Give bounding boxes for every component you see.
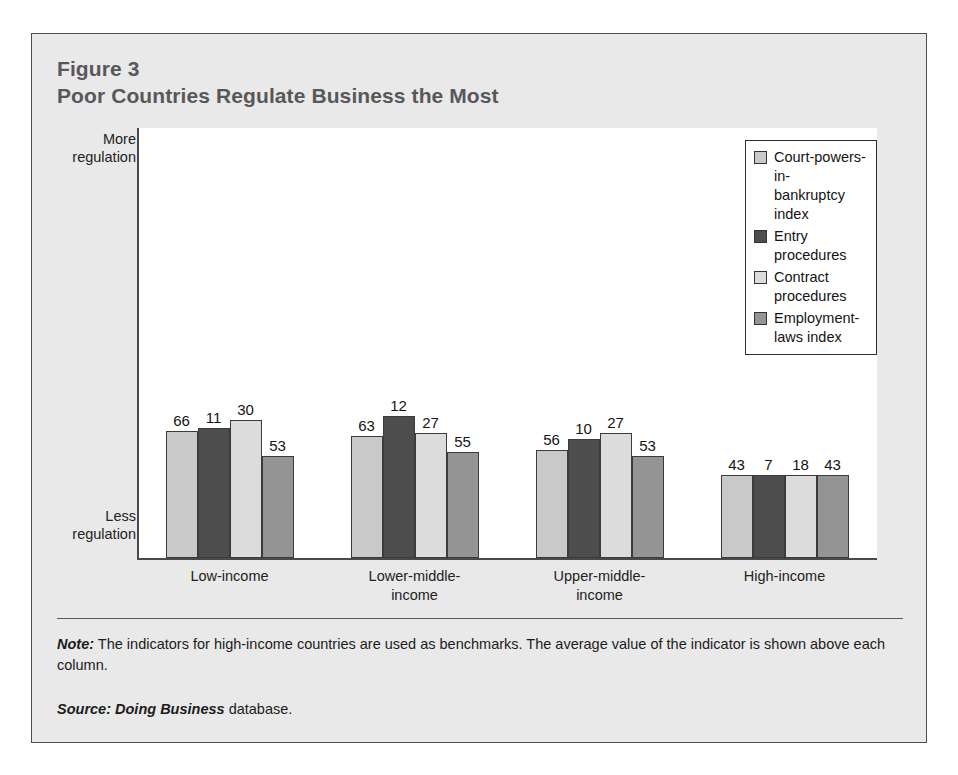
bar	[817, 475, 849, 558]
bar	[721, 475, 753, 558]
legend-label: Entry procedures	[774, 227, 866, 265]
bar-value-label: 12	[390, 397, 407, 414]
bar	[568, 439, 600, 558]
bar	[262, 456, 294, 558]
x-axis-category-labels: Low-incomeLower-middle-incomeUpper-middl…	[137, 567, 877, 605]
figure-screenshot: Figure 3 Poor Countries Regulate Busines…	[0, 0, 958, 775]
legend-item: Contract procedures	[754, 268, 866, 306]
bar-slot: 12	[383, 128, 415, 558]
bar-value-label: 63	[358, 417, 375, 434]
bar	[230, 420, 262, 558]
bar-slot: 63	[351, 128, 383, 558]
legend-item: Court-powers-in-bankruptcy index	[754, 148, 866, 224]
legend-swatch-icon	[754, 312, 767, 325]
bar	[166, 431, 198, 558]
category-label-line2: income	[322, 586, 507, 605]
bar-value-label: 56	[543, 431, 560, 448]
legend-swatch-icon	[754, 271, 767, 284]
bar-slot: 30	[230, 128, 262, 558]
y-axis-top-label: More regulation	[36, 130, 136, 166]
legend-label: Employment-laws index	[774, 309, 866, 347]
legend-label-line1: Court-powers-in-	[774, 148, 866, 186]
figure-panel: Figure 3 Poor Countries Regulate Busines…	[31, 33, 927, 743]
category-label-line1: High-income	[692, 567, 877, 586]
x-axis-category-label: High-income	[692, 567, 877, 605]
page-title: Poor Countries Regulate Business the Mos…	[57, 82, 877, 109]
bar	[600, 433, 632, 558]
bar-value-label: 43	[728, 456, 745, 473]
title-block: Figure 3 Poor Countries Regulate Busines…	[57, 56, 877, 109]
x-axis-category-label: Low-income	[137, 567, 322, 605]
bar-value-label: 30	[237, 401, 254, 418]
bar-slot: 27	[600, 128, 632, 558]
y-axis-top-label-line1: More	[36, 130, 136, 148]
bar-value-label: 27	[422, 414, 439, 431]
bar-group: 66113053	[137, 128, 322, 558]
bar	[447, 452, 479, 558]
legend-swatch-icon	[754, 151, 767, 164]
bar-value-label: 27	[607, 414, 624, 431]
y-axis-top-label-line2: regulation	[36, 148, 136, 166]
source-text: database.	[225, 701, 293, 717]
bar-value-label: 66	[173, 412, 190, 429]
bar	[536, 450, 568, 558]
bar-value-label: 10	[575, 420, 592, 437]
bar-slot: 11	[198, 128, 230, 558]
bar-value-label: 7	[764, 456, 772, 473]
bar-value-label: 43	[824, 456, 841, 473]
bar-slot: 53	[632, 128, 664, 558]
category-label-line1: Lower-middle-	[322, 567, 507, 586]
bar-slot: 56	[536, 128, 568, 558]
category-label-line1: Low-income	[137, 567, 322, 586]
legend-item: Employment-laws index	[754, 309, 866, 347]
category-label-line2: income	[507, 586, 692, 605]
divider	[57, 618, 903, 619]
legend-swatch-icon	[754, 230, 767, 243]
figure-note: Note: The indicators for high-income cou…	[57, 634, 905, 676]
bar-value-label: 55	[454, 433, 471, 450]
bar-slot: 27	[415, 128, 447, 558]
bar-slot: 53	[262, 128, 294, 558]
bar	[753, 475, 785, 558]
x-axis-category-label: Lower-middle-income	[322, 567, 507, 605]
bar	[785, 475, 817, 558]
bar-slot: 55	[447, 128, 479, 558]
bar-value-label: 53	[639, 437, 656, 454]
note-lead: Note:	[57, 636, 94, 652]
bar-value-label: 18	[792, 456, 809, 473]
bar-group: 56102753	[507, 128, 692, 558]
y-axis-bottom-label: Less regulation	[36, 507, 136, 543]
category-label-line1: Upper-middle-	[507, 567, 692, 586]
bar-group: 63122755	[322, 128, 507, 558]
note-text: The indicators for high-income countries…	[57, 636, 885, 673]
bar-value-label: 53	[269, 437, 286, 454]
figure-number: Figure 3	[57, 56, 877, 82]
source-emphasis: Doing Business	[111, 701, 225, 717]
bar-slot: 10	[568, 128, 600, 558]
bar	[632, 456, 664, 558]
bar	[383, 416, 415, 558]
bar-value-label: 11	[206, 409, 222, 426]
bar	[415, 433, 447, 558]
x-axis-category-label: Upper-middle-income	[507, 567, 692, 605]
plot-wrap: 6611305363122755561027534371843 Court-po…	[137, 128, 877, 560]
legend-label-line2: bankruptcy index	[774, 186, 866, 224]
legend-label: Court-powers-in-bankruptcy index	[774, 148, 866, 224]
source-lead: Source:	[57, 701, 111, 717]
chart-legend: Court-powers-in-bankruptcy indexEntry pr…	[745, 140, 877, 355]
figure-source: Source: Doing Business database.	[57, 699, 905, 720]
legend-item: Entry procedures	[754, 227, 866, 265]
bar	[351, 436, 383, 558]
y-axis-bottom-label-line1: Less	[36, 507, 136, 525]
bar-slot: 66	[166, 128, 198, 558]
legend-label: Contract procedures	[774, 268, 866, 306]
bar	[198, 428, 230, 558]
x-axis-line	[137, 558, 877, 560]
y-axis-bottom-label-line2: regulation	[36, 525, 136, 543]
